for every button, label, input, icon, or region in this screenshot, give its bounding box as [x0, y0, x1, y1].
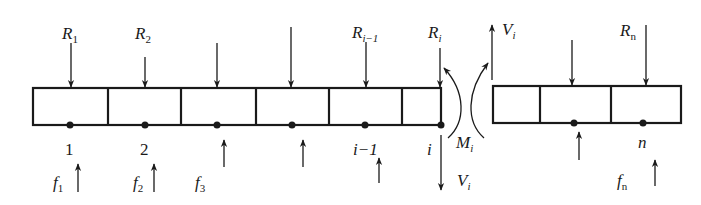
node-i	[438, 122, 445, 129]
node-i-minus-1	[362, 122, 369, 129]
node-1	[67, 122, 74, 129]
left-beam	[33, 88, 441, 125]
label-f2: f2	[133, 173, 143, 194]
right-beam-outline	[493, 86, 681, 123]
node-right-1	[571, 120, 578, 127]
moment-left-arrow-icon	[444, 68, 461, 138]
beam-diagram: R1 R2 Ri−1 Ri Rn Vi Vi Mi 1 2 i−1 i n f1…	[0, 0, 701, 205]
node-4	[289, 122, 296, 129]
internal-force-labels: Vi Vi Mi	[455, 20, 515, 192]
label-fn: fn	[617, 171, 628, 192]
reaction-labels: f1 f2 f3 fn	[53, 171, 628, 194]
label-Vi-down: Vi	[457, 171, 470, 192]
label-R2: R2	[134, 24, 151, 45]
node-label-i-minus-1: i−1	[353, 140, 378, 159]
node-labels: 1 2 i−1 i n	[65, 133, 647, 159]
node-label-1: 1	[65, 140, 74, 159]
label-Ri: Ri	[427, 23, 441, 44]
left-beam-outline	[33, 88, 441, 125]
node-2	[142, 122, 149, 129]
moment-arrows	[444, 63, 488, 138]
right-beam	[493, 86, 681, 123]
label-Vi-up: Vi	[502, 20, 515, 41]
node-label-i: i	[427, 140, 432, 159]
shear-arrows	[441, 25, 492, 190]
node-label-2: 2	[140, 140, 149, 159]
label-f1: f1	[53, 173, 63, 194]
node-label-n: n	[638, 133, 647, 152]
label-Rn: Rn	[619, 21, 636, 42]
label-R1: R1	[61, 24, 78, 45]
label-R-i-minus-1: Ri−1	[351, 23, 378, 44]
label-Mi: Mi	[455, 133, 473, 154]
label-f3: f3	[195, 173, 206, 194]
node-3	[214, 122, 221, 129]
node-n	[640, 120, 647, 127]
load-labels: R1 R2 Ri−1 Ri Rn	[61, 21, 636, 45]
moment-right-arrow-icon	[471, 63, 488, 138]
